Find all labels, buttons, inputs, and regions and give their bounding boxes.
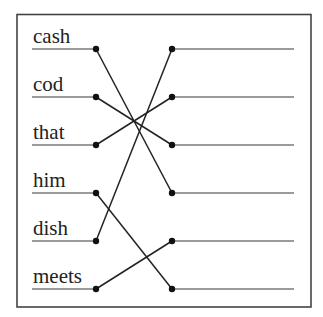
left-dot[interactable]: [93, 46, 99, 52]
word-label: dish: [33, 216, 69, 240]
word-label: that: [33, 120, 65, 144]
connectors: [96, 49, 172, 289]
left-item-meets: meets: [32, 264, 96, 289]
left-item-dish: dish: [32, 216, 96, 241]
right-dot[interactable]: [169, 94, 175, 100]
right-dot[interactable]: [169, 286, 175, 292]
left-dot[interactable]: [93, 286, 99, 292]
word-label: him: [33, 168, 66, 192]
right-dot[interactable]: [169, 238, 175, 244]
left-dot[interactable]: [93, 238, 99, 244]
left-item-cash: cash: [32, 24, 96, 49]
matching-diagram: cashcodthathimdishmeets: [0, 0, 323, 317]
left-dot[interactable]: [93, 190, 99, 196]
left-item-that: that: [32, 120, 96, 145]
right-dot[interactable]: [169, 142, 175, 148]
left-item-cod: cod: [32, 72, 96, 97]
right-dot[interactable]: [169, 190, 175, 196]
connector-line: [96, 49, 172, 241]
word-label: cash: [33, 24, 71, 48]
connector-line: [96, 193, 172, 289]
left-dot[interactable]: [93, 142, 99, 148]
right-column: [172, 49, 294, 289]
dots: [93, 46, 175, 292]
left-dot[interactable]: [93, 94, 99, 100]
left-column: cashcodthathimdishmeets: [32, 24, 96, 289]
connector-line: [96, 241, 172, 289]
left-item-him: him: [32, 168, 96, 193]
word-label: meets: [33, 264, 82, 288]
right-dot[interactable]: [169, 46, 175, 52]
word-label: cod: [33, 72, 64, 96]
